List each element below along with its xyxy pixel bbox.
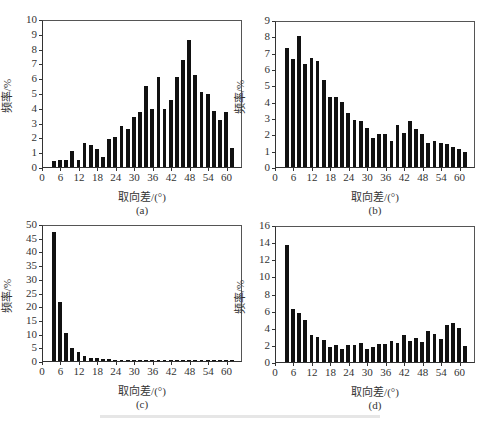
bar: 1.2 xyxy=(89,358,93,361)
y-tick-mark xyxy=(39,64,42,65)
y-tick-label: 6 xyxy=(17,73,37,84)
bar: 2.6 xyxy=(396,125,400,167)
y-tick-mark xyxy=(272,277,275,278)
bar: 7.3 xyxy=(285,48,289,167)
bar: 1.5 xyxy=(426,143,430,168)
bar: 0.7 xyxy=(101,157,105,167)
x-tick-mark xyxy=(330,363,331,366)
x-tick-mark xyxy=(330,168,331,171)
bar: 2.1 xyxy=(377,344,381,362)
bar: 2.5 xyxy=(408,341,412,362)
y-tick-mark xyxy=(272,312,275,313)
y-tick-mark xyxy=(39,225,42,226)
x-tick-mark xyxy=(153,362,154,365)
bar: 0.9 xyxy=(463,152,467,167)
x-tick-label: 54 xyxy=(431,367,451,378)
bar: 2.2 xyxy=(359,343,363,362)
x-tick-label: 30 xyxy=(357,172,377,183)
bar: 0.2 xyxy=(138,360,142,361)
bar: 4.5 xyxy=(451,323,455,362)
y-tick-label: 5 xyxy=(17,342,37,353)
x-tick-label: 54 xyxy=(431,172,451,183)
x-tick-label: 18 xyxy=(87,366,107,377)
x-tick-mark xyxy=(97,362,98,365)
x-tick-mark xyxy=(460,168,461,171)
x-tick-label: 0 xyxy=(32,366,52,377)
panel-sublabel: (c) xyxy=(127,398,157,410)
x-tick-label: 24 xyxy=(339,172,359,183)
bar: 4.3 xyxy=(328,97,332,167)
bar: 2 xyxy=(334,345,338,362)
bar: 3.8 xyxy=(212,111,216,167)
y-tick-label: 5 xyxy=(250,80,270,91)
bar: 3.9 xyxy=(150,109,154,167)
bar: 6.1 xyxy=(175,77,179,167)
x-tick-mark xyxy=(312,168,313,171)
y-tick-mark xyxy=(39,124,42,125)
y-tick-label: 16 xyxy=(250,220,270,231)
y-tick-mark xyxy=(272,260,275,261)
y-tick-mark xyxy=(272,86,275,87)
x-tick-mark xyxy=(460,363,461,366)
bar: 0.2 xyxy=(230,360,234,361)
y-tick-label: 20 xyxy=(17,301,37,312)
x-tick-label: 42 xyxy=(161,366,181,377)
y-tick-label: 5 xyxy=(17,88,37,99)
x-tick-mark xyxy=(208,362,209,365)
y-tick-label: 4 xyxy=(250,97,270,108)
x-tick-mark xyxy=(190,168,191,171)
bar: 2 xyxy=(377,134,381,167)
y-tick-mark xyxy=(39,35,42,36)
bar: 0.2 xyxy=(126,360,130,361)
bar: 0.3 xyxy=(169,360,173,361)
x-tick-mark xyxy=(79,168,80,171)
x-tick-label: 42 xyxy=(394,172,414,183)
y-tick-mark xyxy=(272,346,275,347)
bar: 0.3 xyxy=(187,360,191,361)
bar: 2.1 xyxy=(402,133,406,167)
bar: 3.2 xyxy=(218,120,222,167)
y-tick-label: 8 xyxy=(250,289,270,300)
bar: 2.2 xyxy=(396,343,400,362)
bar: 1.2 xyxy=(451,147,455,167)
y-tick-label: 25 xyxy=(17,288,37,299)
x-tick-label: 12 xyxy=(302,172,322,183)
y-tick-mark xyxy=(39,294,42,295)
x-tick-mark xyxy=(227,168,228,171)
x-tick-mark xyxy=(134,168,135,171)
x-tick-mark xyxy=(60,168,61,171)
y-tick-mark xyxy=(272,70,275,71)
x-tick-label: 36 xyxy=(376,367,396,378)
x-tick-mark xyxy=(367,168,368,171)
y-tick-mark xyxy=(39,335,42,336)
bar: 4.5 xyxy=(169,100,173,167)
y-tick-label: 7 xyxy=(250,48,270,59)
bar: 1.9 xyxy=(463,346,467,362)
bar: 4.8 xyxy=(70,348,74,361)
bar: 5.3 xyxy=(322,80,326,167)
bar: 4.3 xyxy=(445,325,449,362)
bar: 2.7 xyxy=(439,339,443,362)
bar: 1.6 xyxy=(433,141,437,167)
bar: 0.3 xyxy=(224,360,228,361)
x-tick-mark xyxy=(97,168,98,171)
x-axis-label: 取向差/(°) xyxy=(92,382,192,398)
bar: 2.4 xyxy=(390,341,394,362)
x-tick-mark xyxy=(312,363,313,366)
y-tick-mark xyxy=(39,348,42,349)
bar: 2.8 xyxy=(408,121,412,167)
bar: 2.8 xyxy=(359,121,363,167)
bar: 1.6 xyxy=(83,143,87,167)
x-tick-mark xyxy=(42,168,43,171)
bar: 3.3 xyxy=(433,334,437,362)
y-tick-mark xyxy=(39,50,42,51)
bar: 3.4 xyxy=(132,117,136,167)
x-tick-label: 36 xyxy=(376,172,396,183)
bar: 0.2 xyxy=(206,360,210,361)
bar: 1.1 xyxy=(457,149,461,167)
x-tick-mark xyxy=(171,362,172,365)
bar: 3.6 xyxy=(426,331,430,362)
x-tick-label: 24 xyxy=(106,172,126,183)
bar: 6.7 xyxy=(310,58,314,167)
x-tick-mark xyxy=(134,362,135,365)
